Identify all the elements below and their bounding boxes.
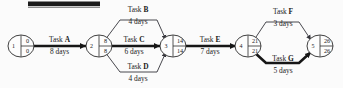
task-c-letter: C [139, 35, 144, 44]
pert-network-diagram: 1 0 0 2 8 8 3 14 14 4 21 [0, 0, 343, 88]
node-2[interactable]: 2 8 8 [86, 35, 112, 57]
task-e-name-group: Task E [200, 35, 221, 44]
node-3[interactable]: 3 14 14 [160, 35, 186, 57]
task-g-letter: G [288, 54, 294, 63]
task-a-name: Task [49, 35, 65, 44]
label-task-d: Task D 4 days [127, 62, 148, 83]
task-c-duration: 6 days [124, 47, 143, 56]
node-3-id: 3 [165, 43, 168, 49]
task-g-name: Task [272, 54, 288, 63]
task-f-duration: 3 days [273, 19, 292, 28]
node-1[interactable]: 1 0 0 [8, 35, 34, 57]
node-4-latest-time: 21 [252, 47, 258, 54]
redacted-caption-bar [28, 2, 100, 7]
task-f-name-group: Task F [273, 7, 294, 16]
task-e-duration: 7 days [200, 47, 219, 56]
node-1-earliest-time: 0 [26, 37, 29, 44]
task-c-name-group: Task C [123, 35, 144, 44]
node-5-latest-time: 26 [324, 47, 330, 54]
node-5-earliest-time: 26 [324, 37, 330, 44]
task-a-name-group: Task A [49, 35, 71, 44]
task-d-duration: 4 days [128, 74, 147, 83]
network-diagram-canvas: 1 0 0 2 8 8 3 14 14 4 21 [0, 0, 343, 88]
task-d-name-group: Task D [127, 62, 148, 71]
node-3-earliest-time: 14 [177, 37, 183, 44]
node-3-latest-time: 14 [177, 47, 183, 54]
task-b-name: Task [128, 5, 144, 14]
task-d-name: Task [127, 62, 143, 71]
task-a-duration: 8 days [50, 47, 69, 56]
node-2-id: 2 [90, 43, 93, 49]
node-4[interactable]: 4 21 21 [235, 35, 261, 57]
task-e-letter: E [215, 35, 220, 44]
node-2-latest-time: 8 [104, 47, 107, 54]
node-2-earliest-time: 8 [104, 37, 107, 44]
node-5-id: 5 [312, 43, 315, 49]
node-4-earliest-time: 21 [252, 37, 258, 44]
task-b-duration: 4 days [128, 17, 147, 26]
task-f-letter: F [289, 7, 294, 16]
node-4-id: 4 [240, 43, 243, 49]
task-g-duration: 5 days [273, 66, 292, 75]
task-a-letter: A [65, 35, 71, 44]
task-g-name-group: Task G [272, 54, 294, 63]
label-task-f: Task F 3 days [273, 7, 294, 29]
task-c-name: Task [123, 35, 139, 44]
task-d-letter: D [143, 62, 148, 71]
node-1-id: 1 [12, 43, 15, 49]
task-e-name: Task [200, 35, 216, 44]
label-task-b: Task B 4 days [128, 5, 149, 27]
task-f-name: Task [273, 7, 289, 16]
node-5[interactable]: 5 26 26 [307, 35, 333, 57]
task-b-letter: B [143, 5, 148, 14]
task-b-name-group: Task B [128, 5, 149, 14]
node-1-latest-time: 0 [26, 47, 29, 54]
